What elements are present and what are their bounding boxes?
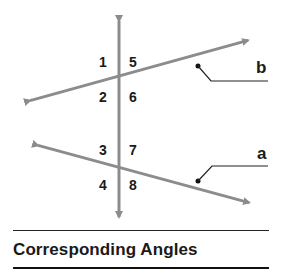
angle-4: 4 <box>99 177 107 193</box>
bottom-rule <box>13 267 269 269</box>
angle-1: 1 <box>99 54 107 70</box>
angle-3: 3 <box>99 142 107 158</box>
angle-5: 5 <box>129 54 137 70</box>
leader-a <box>196 166 269 184</box>
line-a <box>38 145 249 202</box>
label-b: b <box>256 58 266 77</box>
caption-title: Corresponding Angles <box>13 240 198 260</box>
angle-2: 2 <box>99 89 107 105</box>
label-a: a <box>257 144 267 163</box>
angle-7: 7 <box>129 142 137 158</box>
angle-8: 8 <box>129 177 137 193</box>
line-b <box>30 40 248 100</box>
angle-6: 6 <box>129 89 137 105</box>
angles-diagram: b a 1 5 2 6 3 7 4 8 <box>0 0 283 279</box>
top-rule <box>13 230 269 231</box>
